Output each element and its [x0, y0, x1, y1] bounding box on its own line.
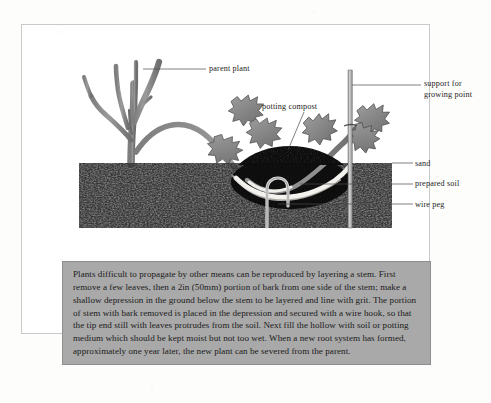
- label-sand: sand: [415, 158, 431, 169]
- leader-potting-compost: [288, 112, 304, 150]
- label-prepared-soil: prepared soil: [415, 178, 459, 189]
- caption-box: Plants difficult to propagate by other m…: [62, 261, 431, 365]
- parent-plant-stems: [84, 62, 159, 164]
- label-potting-compost: potting compost: [262, 101, 317, 112]
- label-wire-peg: wire peg: [415, 199, 445, 210]
- caption-text: Plants difficult to propagate by other m…: [73, 268, 423, 358]
- label-support-line2: growing point: [424, 89, 472, 100]
- label-parent-plant: parent plant: [209, 63, 250, 74]
- label-support-for-growing-point: support for growing point: [424, 78, 472, 100]
- label-support-line1: support for: [424, 78, 472, 89]
